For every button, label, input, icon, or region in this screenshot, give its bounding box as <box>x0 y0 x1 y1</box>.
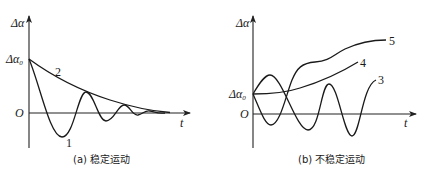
figure: Δα t O Δα0 2 1 (a) 稳定运动 Δα t O Δα0 5 4 3… <box>0 0 425 175</box>
panel-b-curve-5 <box>253 40 386 125</box>
panel-b-x-label: t <box>404 116 408 130</box>
panel-b-y-label: Δα <box>235 16 250 30</box>
panel-a-curve-1 <box>29 59 165 137</box>
panel-a-x-label: t <box>180 116 184 130</box>
panel-a-curve-2 <box>29 59 170 113</box>
panel-a-stable: Δα t O Δα0 2 1 (a) 稳定运动 <box>5 16 190 165</box>
panel-b-curve-5-label: 5 <box>389 34 395 48</box>
panel-a-origin: O <box>15 106 24 120</box>
panel-a-caption: (a) 稳定运动 <box>73 153 130 165</box>
panel-a-y-label: Δα <box>10 16 25 30</box>
panel-a-initial-label: Δα0 <box>5 52 23 67</box>
panel-b-unstable: Δα t O Δα0 5 4 3 (b) 不稳定运动 <box>228 16 416 165</box>
panel-b-curve-4 <box>253 62 358 94</box>
panel-a-curve-2-label: 2 <box>55 65 61 79</box>
panel-a-curve-1-label: 1 <box>66 136 72 150</box>
panel-b-curve-4-label: 4 <box>360 56 366 70</box>
panel-b-curve-3 <box>253 75 376 136</box>
panel-b-origin: O <box>240 107 249 121</box>
panel-b-initial-label: Δα0 <box>228 87 246 102</box>
panel-b-caption: (b) 不稳定运动 <box>298 153 365 165</box>
panel-b-curve-3-label: 3 <box>378 73 384 87</box>
